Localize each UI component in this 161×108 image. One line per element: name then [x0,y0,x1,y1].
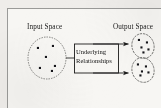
process-box-text: Underlying Relationships [76,47,118,65]
process-box-line-1: Underlying [76,47,118,56]
process-box-line-2: Relationships [76,56,118,65]
output-cluster-upper-ellipse [129,31,158,62]
output-cluster-upper-points [138,39,150,54]
input-space-label: Input Space [27,24,62,31]
output-cluster-lower-ellipse [129,55,158,86]
output-cluster-lower-points [137,63,150,76]
output-space-label: Output Space [113,24,153,31]
input-space-points [37,45,56,72]
figure-canvas: Input Space Output Space Underlying Rela… [0,0,161,108]
